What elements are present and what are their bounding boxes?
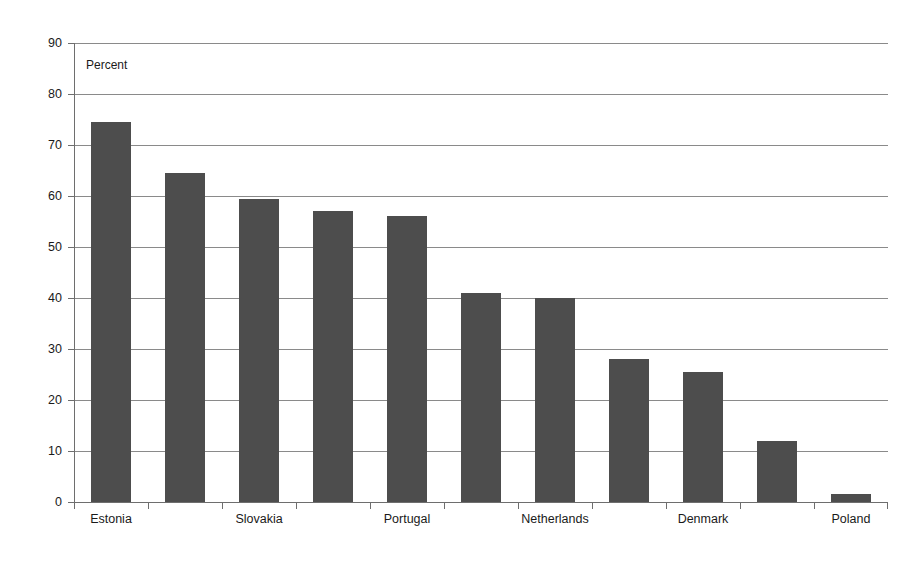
bar	[757, 441, 797, 502]
x-axis-tick-mark	[222, 502, 223, 509]
y-axis-tick-mark	[68, 502, 75, 503]
x-axis-tick-label: Netherlands	[521, 512, 588, 526]
x-axis-ticks	[74, 502, 888, 510]
x-axis-tick-mark	[740, 502, 741, 509]
y-axis-tick-mark	[68, 349, 75, 350]
y-axis-tick-mark	[68, 196, 75, 197]
x-axis-tick-mark	[887, 502, 888, 509]
x-axis-tick-label: Denmark	[678, 512, 729, 526]
y-axis-tick-mark	[68, 247, 75, 248]
x-axis-tick-mark	[370, 502, 371, 509]
y-axis-tick-mark	[68, 400, 75, 401]
x-axis-tick-mark	[518, 502, 519, 509]
bars-layer	[74, 43, 888, 502]
y-axis-tick-label: 40	[48, 291, 62, 305]
y-axis-tick-mark	[68, 298, 75, 299]
x-axis-tick-label: Portugal	[384, 512, 431, 526]
y-axis-tick-mark	[68, 451, 75, 452]
y-axis-tick-label: 60	[48, 189, 62, 203]
bar	[609, 359, 649, 502]
y-axis-tick-label: 70	[48, 138, 62, 152]
x-axis-tick-mark	[74, 502, 75, 509]
y-axis-tick-label: 80	[48, 87, 62, 101]
bar	[313, 211, 353, 502]
x-axis-labels: EstoniaSlovakiaPortugalNetherlandsDenmar…	[74, 512, 888, 542]
bar	[683, 372, 723, 502]
y-axis-tick-mark	[68, 145, 75, 146]
y-axis-tick-label: 0	[55, 495, 62, 509]
bar	[831, 494, 871, 502]
x-axis-tick-label: Poland	[832, 512, 871, 526]
x-axis-tick-label: Estonia	[90, 512, 132, 526]
x-axis-tick-mark	[444, 502, 445, 509]
x-axis-tick-mark	[148, 502, 149, 509]
bar	[91, 122, 131, 502]
x-axis-tick-label: Slovakia	[235, 512, 282, 526]
y-axis-tick-mark	[68, 43, 75, 44]
y-axis-tick-label: 50	[48, 240, 62, 254]
y-axis-tick-label: 90	[48, 36, 62, 50]
y-axis-tick-label: 30	[48, 342, 62, 356]
bar	[461, 293, 501, 502]
y-axis-tick-label: 10	[48, 444, 62, 458]
y-axis-labels: 9080706050403020100	[0, 43, 62, 502]
bar	[165, 173, 205, 502]
y-axis-tick-label: 20	[48, 393, 62, 407]
bar-chart: Percent 9080706050403020100 EstoniaSlova…	[0, 0, 923, 562]
bar	[387, 216, 427, 502]
x-axis-tick-mark	[814, 502, 815, 509]
x-axis-tick-mark	[666, 502, 667, 509]
x-axis-tick-mark	[296, 502, 297, 509]
bar	[535, 298, 575, 502]
y-axis-tick-mark	[68, 94, 75, 95]
bar	[239, 199, 279, 502]
x-axis-tick-mark	[592, 502, 593, 509]
